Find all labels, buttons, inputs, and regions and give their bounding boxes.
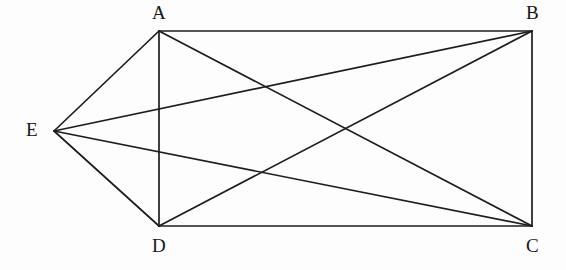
segment-eb bbox=[54, 31, 532, 131]
vertex-label-a: A bbox=[152, 3, 166, 22]
apex-connectors bbox=[54, 31, 532, 226]
vertex-label-d: D bbox=[152, 236, 166, 255]
segment-ea bbox=[54, 31, 159, 131]
vertex-label-b: B bbox=[526, 3, 539, 22]
vertex-label-c: C bbox=[526, 236, 539, 255]
geometry-figure: A B C D E bbox=[0, 0, 566, 270]
segment-ec bbox=[54, 131, 532, 226]
diagram-canvas bbox=[0, 0, 566, 270]
diagonals bbox=[159, 31, 532, 226]
vertex-label-e: E bbox=[26, 120, 38, 139]
segment-ed bbox=[54, 131, 159, 226]
